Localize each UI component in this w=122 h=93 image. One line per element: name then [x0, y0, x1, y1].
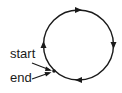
end-pointer-arrowhead-icon: [45, 72, 52, 77]
arrow-right-icon: [75, 7, 82, 13]
start-end-point: [52, 69, 56, 73]
end-label: end: [10, 70, 32, 85]
arrow-up-icon: [41, 41, 47, 48]
arrow-down-icon: [111, 42, 117, 49]
arrow-left-icon: [75, 77, 82, 83]
start-label: start: [10, 46, 36, 61]
loop-diagram: start end: [0, 0, 122, 93]
